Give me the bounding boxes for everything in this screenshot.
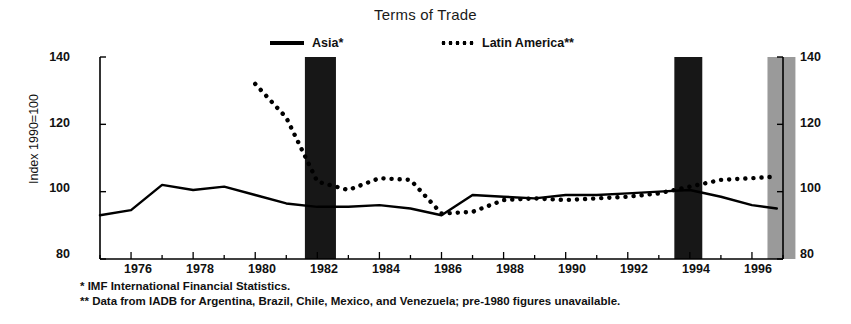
footnote-latin-america-source: ** Data from IADB for Argentina, Brazil,… (80, 294, 620, 309)
recession-bands (305, 57, 796, 259)
plot-area (0, 0, 851, 324)
recession-band-1994 (674, 57, 702, 259)
chart-figure: Terms of Trade Asia* Latin America** Ind… (0, 0, 851, 324)
recession-band-1997 (767, 57, 795, 259)
recession-band-1982 (305, 57, 336, 259)
footnotes: * IMF International Financial Statistics… (80, 279, 620, 309)
footnote-asia-source: * IMF International Financial Statistics… (80, 279, 620, 294)
